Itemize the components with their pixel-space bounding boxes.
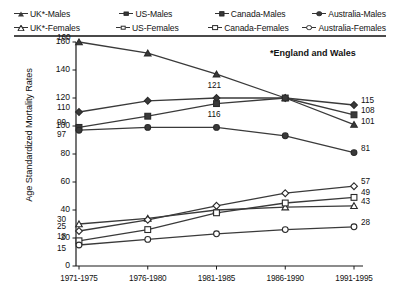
data-value-label-mid: 121 [208,82,222,90]
legend-line-sample [215,13,229,14]
series-us-females [76,183,358,235]
legend-item-label: Australia-Males [328,9,386,19]
x-tick-label: 1986-1990 [250,274,320,283]
data-point-marker [351,150,357,156]
data-point-marker [282,190,289,197]
series-layer [76,39,358,248]
triangle-open-icon [18,25,25,31]
triangle-filled-icon [18,11,24,16]
data-value-label-right: 43 [361,198,370,206]
data-point-marker [213,202,220,209]
data-point-marker [76,127,82,133]
data-point-marker [145,125,151,131]
x-tick-label: 1981-1985 [182,274,252,283]
data-value-label-left: 110 [57,104,70,112]
data-value-label-right: 115 [361,97,374,105]
data-value-label-right: 108 [361,107,375,115]
series-australia-females [76,224,357,248]
legend-line-sample [302,27,316,28]
legend-item-label: UK*-Females [30,23,80,33]
circle-open-icon [307,25,313,31]
legend-line-sample [14,13,28,14]
square-filled-icon [219,11,224,16]
data-value-label-left: 97 [57,131,66,139]
data-point-marker [145,113,151,119]
footnote-annotation: *England and Wales [270,48,356,58]
square-open-icon [212,25,218,31]
circle-filled-icon [316,11,322,17]
legend-item-uk-males[interactable]: UK*-Males [14,7,119,20]
data-point-marker [351,183,358,190]
data-point-marker [351,112,357,118]
legend-item-label: UK*-Males [30,9,70,19]
data-value-label-left: 18 [57,233,66,241]
x-tick-label: 1971-1975 [44,274,114,283]
legend-item-us-males[interactable]: US-Males [119,7,214,20]
mortality-rate-line-chart: UK*-MalesUS-MalesCanada-MalesAustralia-M… [0,0,397,294]
data-point-marker [214,210,220,216]
data-point-marker [351,195,357,201]
legend-item-label: Canada-Females [224,23,289,33]
series-australia-males [76,125,357,156]
data-point-marker [144,216,151,223]
legend-item-label: US-Females [132,23,179,33]
legend-item-australia-females[interactable]: Australia-Females [302,21,386,34]
plot-svg [0,38,397,294]
legend-item-australia-males[interactable]: Australia-Males [312,7,386,20]
data-value-label-right: 57 [361,178,370,186]
legend-line-sample [119,13,133,14]
data-value-label-left: 15 [57,245,66,253]
data-value-label-right: 81 [361,145,370,153]
data-value-label-left: 25 [57,223,66,231]
chart-legend: UK*-MalesUS-MalesCanada-MalesAustralia-M… [14,6,386,36]
legend-line-sample [208,27,222,28]
data-point-marker [76,109,83,116]
x-tick-label: 1991-1995 [319,274,389,283]
data-point-marker [214,101,220,107]
legend-line-sample [116,27,130,28]
data-point-marker [351,224,357,230]
x-tick-label: 1976-1980 [113,274,183,283]
data-point-marker [145,227,151,233]
legend-item-label: Australia-Females [318,23,386,33]
legend-item-canada-females[interactable]: Canada-Females [208,21,302,34]
data-value-label-left: 160 [57,34,71,42]
legend-line-sample [14,27,28,28]
data-point-marker [282,200,288,206]
data-value-label-left: 99 [57,119,66,127]
legend-item-canada-males[interactable]: Canada-Males [215,7,312,20]
legend-row-males: UK*-MalesUS-MalesCanada-MalesAustralia-M… [14,7,386,20]
data-point-marker [76,242,82,248]
data-value-label-mid: 116 [208,111,221,119]
data-point-marker [282,227,288,233]
data-point-marker [144,97,151,104]
data-point-marker [214,231,220,237]
legend-line-sample [312,13,326,14]
diamond-filled-icon [124,11,129,16]
data-value-label-right: 28 [361,219,370,227]
plot-area: Age Standardized Mortality Rates 0204060… [0,38,397,294]
data-point-marker [76,228,83,235]
legend-item-label: Canada-Males [231,9,286,19]
diamond-open-icon [121,25,126,30]
data-point-marker [214,125,220,131]
data-point-marker [351,102,358,109]
legend-item-us-females[interactable]: US-Females [116,21,208,34]
legend-item-label: US-Males [135,9,172,19]
data-value-label-right: 101 [361,118,375,126]
series-line [79,127,354,152]
data-point-marker [282,133,288,139]
data-point-marker [145,237,151,243]
data-point-marker [282,95,288,101]
